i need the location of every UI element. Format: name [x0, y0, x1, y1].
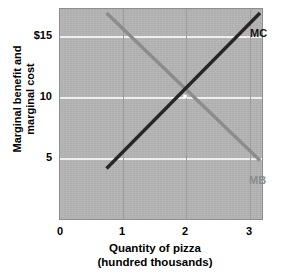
series-container: [60, 9, 262, 219]
x-tick-label-1: 1: [110, 226, 134, 237]
series-label-mb: MB: [249, 175, 266, 186]
chart-figure: $15 10 5 0 1 2 3 MC MB Marginal benefit …: [0, 0, 284, 274]
x-axis-title: Quantity of pizza (hundred thousands): [40, 241, 270, 269]
equilibrium-point-marker: [183, 95, 186, 98]
x-axis-title-line1: Quantity of pizza: [40, 241, 270, 255]
plot-area: [59, 8, 263, 220]
series-label-mc: MC: [250, 28, 267, 39]
y-axis-title-line1: Marginal benefit and: [11, 19, 24, 179]
x-tick-label-3: 3: [237, 226, 261, 237]
x-tick-label-0: 0: [48, 226, 72, 237]
y-axis-title: Marginal benefit and marginal cost: [11, 19, 37, 179]
y-axis-title-line2: marginal cost: [24, 19, 37, 179]
x-axis-title-line2: (hundred thousands): [40, 255, 270, 269]
x-tick-label-2: 2: [173, 226, 197, 237]
